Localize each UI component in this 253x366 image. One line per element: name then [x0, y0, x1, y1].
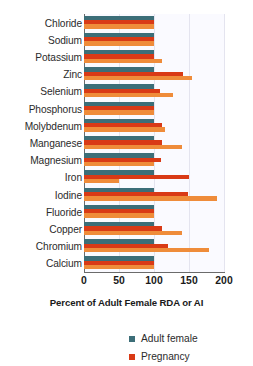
bar-lactation	[84, 265, 154, 269]
bar-group	[84, 205, 154, 219]
x-axis-line	[84, 272, 225, 273]
bar-row: Magnesium	[0, 152, 253, 169]
category-label: Selenium	[40, 86, 82, 97]
bar-lactation	[84, 231, 182, 235]
category-label: Zinc	[63, 69, 82, 80]
category-label: Sodium	[48, 34, 82, 45]
bar-group	[84, 84, 173, 98]
bar-group	[84, 188, 217, 202]
legend-item[interactable]: Pregnancy	[129, 349, 198, 364]
x-tick-label: 0	[81, 275, 87, 286]
category-label: Molybdenum	[25, 120, 82, 131]
x-tick-label: 200	[215, 275, 232, 286]
legend-item[interactable]: Adult female	[129, 331, 198, 346]
x-tick-label: 50	[113, 275, 125, 286]
chart-legend: Adult femalePregnancy	[129, 331, 198, 366]
bar-row: Iodine	[0, 186, 253, 203]
x-axis-title: Percent of Adult Female RDA or AI	[0, 297, 253, 308]
bar-row: Potassium	[0, 48, 253, 65]
bar-group	[84, 67, 192, 81]
bar-row: Copper	[0, 220, 253, 237]
bar-row: Selenium	[0, 83, 253, 100]
category-label: Calcium	[46, 258, 82, 269]
bar-lactation	[84, 41, 154, 45]
category-label: Copper	[49, 223, 82, 234]
bar-row: Phosphorus	[0, 100, 253, 117]
bar-row: Sodium	[0, 31, 253, 48]
bar-group	[84, 119, 165, 133]
bar-group	[84, 170, 189, 184]
bar-lactation	[84, 59, 162, 63]
bar-group	[84, 239, 209, 253]
category-label: Fluoride	[46, 206, 82, 217]
category-label: Iron	[65, 172, 82, 183]
x-tick-label: 100	[145, 275, 162, 286]
legend-label: Adult female	[141, 333, 198, 344]
bar-lactation	[84, 93, 173, 97]
bar-lactation	[84, 110, 154, 114]
bar-group	[84, 50, 162, 64]
bar-group	[84, 256, 154, 270]
bar-row: Molybdenum	[0, 117, 253, 134]
bar-lactation	[84, 162, 154, 166]
bar-group	[84, 136, 182, 150]
bar-row: Chloride	[0, 14, 253, 31]
bar-group	[84, 222, 182, 236]
category-label: Manganese	[30, 137, 82, 148]
legend-label: Pregnancy	[141, 351, 190, 362]
legend-swatch-icon	[129, 336, 135, 342]
bar-row: Fluoride	[0, 203, 253, 220]
bar-lactation	[84, 127, 165, 131]
bar-row: Calcium	[0, 255, 253, 272]
bar-lactation	[84, 145, 182, 149]
category-label: Magnesium	[30, 155, 82, 166]
x-tick-label: 150	[180, 275, 197, 286]
legend-swatch-icon	[129, 354, 135, 360]
bar-row: Zinc	[0, 66, 253, 83]
bar-group	[84, 153, 161, 167]
bar-lactation	[84, 248, 209, 252]
bar-row: Iron	[0, 169, 253, 186]
category-label: Chromium	[36, 241, 82, 252]
bar-row: Chromium	[0, 238, 253, 255]
bar-lactation	[84, 213, 154, 217]
bar-lactation	[84, 24, 154, 28]
bar-lactation	[84, 179, 119, 183]
bar-group	[84, 33, 154, 47]
category-label: Chloride	[45, 17, 82, 28]
bar-group	[84, 102, 154, 116]
category-label: Phosphorus	[29, 103, 82, 114]
bar-lactation	[84, 76, 192, 80]
bar-group	[84, 16, 154, 30]
category-label: Iodine	[55, 189, 82, 200]
bar-lactation	[84, 196, 217, 200]
bar-row: Manganese	[0, 134, 253, 151]
category-label: Potassium	[35, 51, 82, 62]
